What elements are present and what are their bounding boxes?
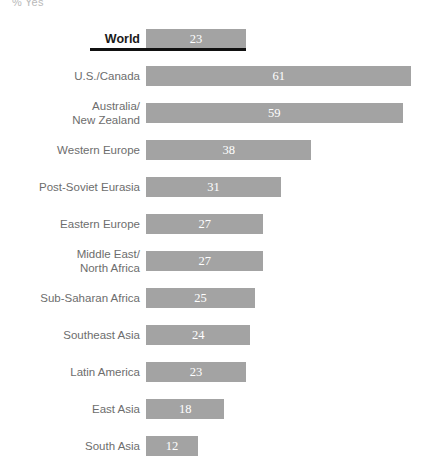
bar-row: Middle East/ North Africa27	[0, 242, 425, 279]
bar: 31	[146, 177, 281, 197]
bar-track: 27	[146, 214, 263, 234]
bar-value-label: 59	[146, 105, 403, 120]
bar-track: 12	[146, 436, 198, 456]
world-highlight-rule	[90, 48, 246, 51]
bar-row-label: Post-Soviet Eurasia	[0, 180, 140, 194]
bar: 23	[146, 362, 246, 382]
bar-value-label: 23	[146, 364, 246, 379]
bar-track: 23	[146, 362, 246, 382]
bar-value-label: 27	[146, 216, 263, 231]
bar-track: 18	[146, 399, 224, 419]
bar-value-label: 31	[146, 179, 281, 194]
bar-track: 38	[146, 140, 311, 160]
bar-row: Southeast Asia24	[0, 316, 425, 353]
bar-row-label: Southeast Asia	[0, 328, 140, 342]
bar-row: World23	[0, 20, 425, 57]
bar: 38	[146, 140, 311, 160]
bar-track: 27	[146, 251, 263, 271]
bar: 61	[146, 66, 411, 86]
bar: 27	[146, 214, 263, 234]
bar-value-label: 38	[146, 142, 311, 157]
bar-row: South Asia12	[0, 427, 425, 464]
bar-row-label: U.S./Canada	[0, 69, 140, 83]
bar-value-label: 18	[146, 401, 224, 416]
bar-value-label: 25	[146, 290, 255, 305]
bar-row-label: South Asia	[0, 439, 140, 453]
bar-track: 59	[146, 103, 403, 123]
bar-row: East Asia18	[0, 390, 425, 427]
bar-track: 24	[146, 325, 250, 345]
bar-row-label: Latin America	[0, 365, 140, 379]
bar-row-label: Sub-Saharan Africa	[0, 291, 140, 305]
bar-value-label: 12	[146, 438, 198, 453]
bar: 23	[146, 29, 246, 49]
bar-row: Western Europe38	[0, 131, 425, 168]
bar-row: Eastern Europe27	[0, 205, 425, 242]
bar-row: Australia/ New Zealand59	[0, 94, 425, 131]
bar-chart: % Yes World23U.S./Canada61Australia/ New…	[0, 0, 425, 475]
bar-row-label: Western Europe	[0, 143, 140, 157]
bar-row: Sub-Saharan Africa25	[0, 279, 425, 316]
bar: 27	[146, 251, 263, 271]
bar: 59	[146, 103, 403, 123]
bar-row: Post-Soviet Eurasia31	[0, 168, 425, 205]
bar-value-label: 24	[146, 327, 250, 342]
bar-row: U.S./Canada61	[0, 57, 425, 94]
bar-value-label: 23	[146, 31, 246, 46]
bar-row-label: World	[0, 32, 140, 46]
bar-row: Latin America23	[0, 353, 425, 390]
bar-rows: World23U.S./Canada61Australia/ New Zeala…	[0, 20, 425, 464]
bar: 18	[146, 399, 224, 419]
bar-row-label: Australia/ New Zealand	[0, 99, 140, 127]
bar-value-label: 27	[146, 253, 263, 268]
bar-track: 25	[146, 288, 255, 308]
bar-value-label: 61	[146, 68, 411, 83]
bar: 24	[146, 325, 250, 345]
bar: 25	[146, 288, 255, 308]
bar: 12	[146, 436, 198, 456]
axis-caption: % Yes	[12, 0, 44, 8]
bar-row-label: East Asia	[0, 402, 140, 416]
bar-track: 31	[146, 177, 281, 197]
bar-track: 23	[146, 29, 246, 49]
bar-row-label: Middle East/ North Africa	[0, 247, 140, 275]
bar-track: 61	[146, 66, 411, 86]
bar-row-label: Eastern Europe	[0, 217, 140, 231]
